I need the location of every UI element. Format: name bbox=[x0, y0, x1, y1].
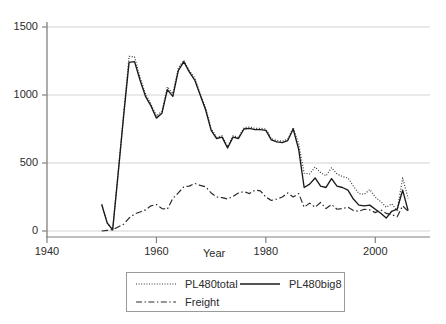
legend-entry-pl480total: PL480total bbox=[135, 275, 238, 293]
series-line-pl480total bbox=[102, 56, 408, 230]
legend-label-pl480big8: PL480big8 bbox=[289, 278, 342, 290]
chart-legend: PL480total PL480big8 Freight bbox=[126, 272, 345, 312]
x-axis-title: Year bbox=[203, 247, 225, 259]
chart-figure: 150010005000 1940196019802000 Year PL480… bbox=[0, 0, 446, 324]
y-tick-label: 0 bbox=[4, 224, 38, 236]
x-tick-label: 2000 bbox=[355, 245, 395, 257]
legend-swatch-dotted bbox=[135, 278, 177, 290]
legend-swatch-dashdot bbox=[135, 296, 177, 308]
y-tick-label: 500 bbox=[4, 156, 38, 168]
legend-entry-freight: Freight bbox=[135, 293, 219, 311]
y-tick-label: 1000 bbox=[4, 88, 38, 100]
axis-lines bbox=[46, 22, 430, 237]
legend-entry-pl480big8: PL480big8 bbox=[239, 275, 342, 293]
y-tick-label: 1500 bbox=[4, 20, 38, 32]
legend-label-freight: Freight bbox=[185, 296, 219, 308]
tick-marks bbox=[42, 27, 375, 243]
x-tick-label: 1980 bbox=[246, 245, 286, 257]
data-series-group bbox=[102, 56, 408, 231]
series-line-freight bbox=[102, 183, 408, 231]
series-line-pl480big8 bbox=[102, 62, 408, 230]
legend-swatch-solid bbox=[239, 278, 281, 290]
legend-label-pl480total: PL480total bbox=[185, 278, 238, 290]
x-tick-label: 1960 bbox=[136, 245, 176, 257]
gridlines bbox=[47, 27, 430, 231]
x-tick-label: 1940 bbox=[27, 245, 67, 257]
